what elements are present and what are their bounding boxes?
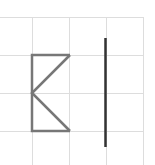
grid-lines	[0, 17, 144, 165]
grid-diagram	[0, 0, 155, 165]
